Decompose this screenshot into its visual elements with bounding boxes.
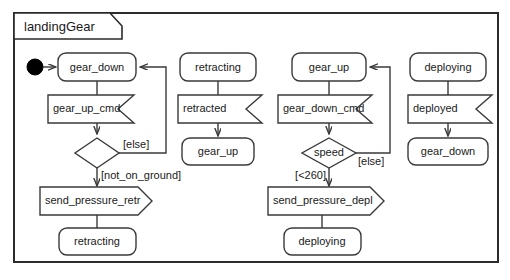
state-retracting-label: retracting	[195, 61, 241, 73]
signal-receive-gear-down-cmd-label: gear_down_cmd	[283, 102, 364, 114]
decision-speed-label: speed	[314, 146, 344, 158]
signal-send-pressure-retr-label: send_pressure_retr	[45, 194, 141, 206]
state-gear-up-label: gear_up	[309, 61, 349, 73]
state-gear-down-target-label: gear_down	[421, 145, 475, 157]
state-gear-down-label: gear_down	[70, 61, 124, 73]
initial-node-icon	[27, 59, 43, 75]
state-retracting-target-label: retracting	[74, 235, 120, 247]
frame-title: landingGear	[24, 19, 95, 34]
state-deploying-target-label: deploying	[298, 235, 345, 247]
guard-not-on-ground: [not_on_ground]	[101, 169, 181, 181]
state-machine-canvas: landingGear gear_down gear_up_cmd [else]…	[0, 0, 510, 280]
guard-else-left: [else]	[123, 138, 149, 150]
guard-speed-lt-260: [<260]	[295, 169, 326, 181]
state-gear-up-target-label: gear_up	[198, 145, 238, 157]
signal-receive-gear-up-cmd-label: gear_up_cmd	[53, 102, 120, 114]
guard-else-right: [else]	[358, 155, 384, 167]
state-deploying-label: deploying	[424, 61, 471, 73]
signal-receive-deployed-label: deployed	[413, 102, 458, 114]
signal-receive-retracted-label: retracted	[183, 102, 226, 114]
state-machine-diagram: landingGear gear_down gear_up_cmd [else]…	[0, 0, 510, 280]
signal-send-pressure-depl-label: send_pressure_depl	[273, 194, 373, 206]
